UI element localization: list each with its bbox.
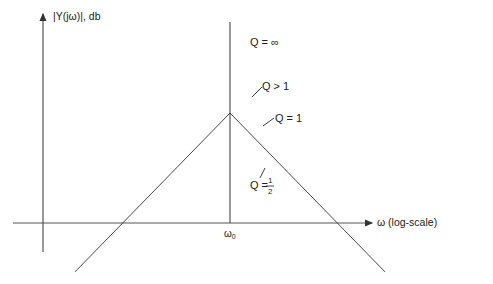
svg-text:Q =: Q =	[250, 179, 268, 191]
svg-text:2: 2	[268, 187, 273, 196]
y-axis-label: |Y(jω)|, db	[53, 10, 101, 22]
asymptote-left	[75, 113, 230, 272]
label-q-infinity: Q = ∞	[250, 36, 279, 48]
leader-q-half	[260, 168, 265, 178]
omega-zero-label: ω0	[224, 228, 236, 240]
svg-text:1: 1	[268, 176, 273, 185]
label-q-gt-1: Q > 1	[262, 80, 289, 92]
asymptote-right	[230, 113, 385, 272]
leader-q-1	[263, 118, 274, 126]
label-q-1: Q = 1	[275, 112, 302, 124]
frequency-response-diagram: |Y(jω)|, db ω (log-scale) ω0 Q = ∞ Q > 1…	[0, 0, 493, 284]
label-q-half: Q = 1 2	[250, 176, 274, 196]
x-axis-label: ω (log-scale)	[377, 216, 437, 228]
leader-q-gt-1	[252, 87, 262, 97]
